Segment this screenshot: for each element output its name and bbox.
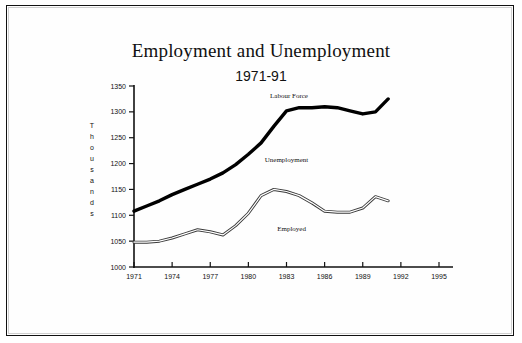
- y-tick-group: 10001050110011501200125013001350: [110, 83, 134, 271]
- y-tick-label: 1200: [110, 160, 126, 167]
- y-tick-label: 1000: [110, 264, 126, 271]
- x-tick-label: 1977: [202, 273, 218, 280]
- axis-group: [133, 85, 453, 268]
- y-tick-label: 1150: [111, 186, 126, 193]
- labour-force-label: Labour Force: [270, 92, 308, 100]
- x-tick-label: 1980: [241, 273, 257, 280]
- series-line-employed-outer: [134, 189, 388, 242]
- x-tick-label: 1989: [355, 273, 371, 280]
- employed-label: Employed: [277, 225, 306, 233]
- chart-area: Employment and Unemployment 1971-91 Thou…: [7, 6, 515, 337]
- series-group: [134, 99, 388, 242]
- y-tick-label: 1100: [111, 212, 126, 219]
- x-tick-label: 1995: [431, 273, 447, 280]
- y-tick-label: 1300: [110, 108, 126, 115]
- y-tick-label: 1050: [110, 238, 126, 245]
- y-tick-label: 1250: [110, 134, 126, 141]
- chart-frame: Employment and Unemployment 1971-91 Thou…: [6, 5, 514, 336]
- x-tick-label: 1986: [317, 273, 333, 280]
- y-tick-label: 1350: [110, 83, 126, 90]
- unemployment-label: Unemployment: [265, 156, 309, 164]
- x-tick-group: 197119741977198019831986198919921995: [126, 262, 447, 280]
- x-tick-label: 1983: [279, 273, 295, 280]
- x-tick-label: 1992: [393, 273, 409, 280]
- x-tick-label: 1971: [126, 273, 142, 280]
- plot-svg: 10001050110011501200125013001350 1971197…: [7, 6, 515, 337]
- x-tick-label: 1974: [164, 273, 180, 280]
